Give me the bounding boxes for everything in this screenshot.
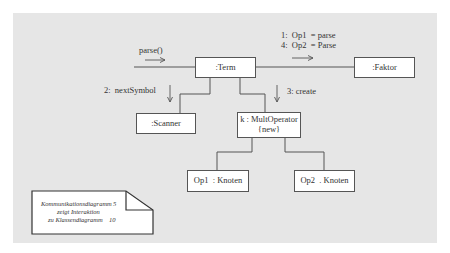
object-scanner-label: :Scanner xyxy=(151,119,181,129)
object-faktor[interactable]: :Faktor xyxy=(354,57,415,78)
object-op1-label: Op1 : Knoten xyxy=(194,176,242,186)
object-op1[interactable]: Op1 : Knoten xyxy=(187,170,249,192)
note-line-1-number: 5 xyxy=(113,200,116,208)
object-op2-label: Op2 . Knoten xyxy=(300,176,348,186)
object-term-label: :Term xyxy=(215,63,235,73)
object-multoperator[interactable]: k : MultOperator {new} xyxy=(237,112,301,138)
object-faktor-label: :Faktor xyxy=(372,63,397,73)
object-term[interactable]: :Term xyxy=(195,57,256,78)
message-create: 3: create xyxy=(287,87,316,97)
object-op2[interactable]: Op2 . Knoten xyxy=(294,170,355,192)
note-line-3: zu Klassendiagramm xyxy=(48,216,103,224)
message-parse: parse() xyxy=(139,46,163,56)
object-multoperator-constraint: {new} xyxy=(258,125,280,135)
message-next-symbol: 2: nextSymbol xyxy=(104,86,156,96)
object-scanner[interactable]: :Scanner xyxy=(136,113,196,134)
note-line-3-number: 10 xyxy=(109,216,116,224)
message-op2-parse: 4: Op2 = Parse xyxy=(281,41,336,51)
